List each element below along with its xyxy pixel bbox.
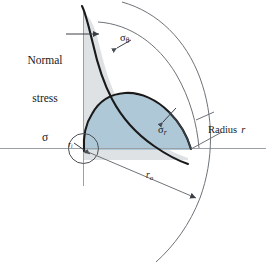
stress-distribution-figure: Normal stress σ σθ σr Radiusr ro ri <box>0 0 266 270</box>
sigma-theta-label: σθ <box>120 32 129 45</box>
normal-stress-label: Normal stress σ <box>14 28 76 170</box>
sigma-r-subscript: r <box>164 128 167 137</box>
sigma-theta-subscript: θ <box>126 36 130 45</box>
r-outer-subscript: o <box>150 174 153 181</box>
normal-stress-line2: stress <box>14 92 76 105</box>
sigma-r-label: σr <box>158 124 167 137</box>
radius-text: Radius <box>208 124 237 135</box>
radius-label: Radiusr <box>208 124 245 136</box>
r-inner-label: ri <box>68 141 72 149</box>
normal-stress-line1: Normal <box>14 54 76 67</box>
normal-stress-symbol: σ <box>14 131 76 144</box>
r-outer-label: ro <box>146 170 153 181</box>
radius-symbol: r <box>241 124 245 135</box>
arc-tick <box>196 112 214 120</box>
r-inner-subscript: i <box>71 143 73 149</box>
